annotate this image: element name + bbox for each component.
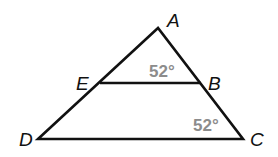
vertex-label-d: D [19,129,33,150]
vertex-label-b: B [208,73,221,94]
geometry-figure: A E B D C 52° 52° [0,0,278,157]
vertex-label-a: A [166,10,180,31]
angle-label-c: 52° [193,116,219,135]
angle-label-b: 52° [149,62,175,81]
vertex-label-e: E [76,73,89,94]
vertex-label-c: C [250,129,264,150]
